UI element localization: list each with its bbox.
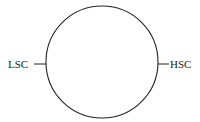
circle-diagram: LSC HSC — [0, 0, 200, 122]
right-label: HSC — [170, 58, 191, 70]
main-circle — [46, 6, 158, 118]
left-label: LSC — [8, 58, 28, 70]
